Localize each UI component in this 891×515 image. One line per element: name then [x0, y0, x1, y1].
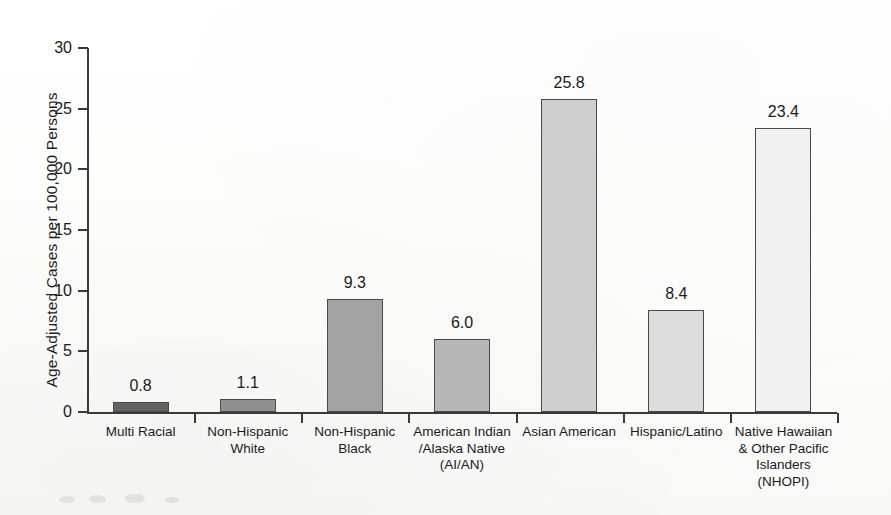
bar-group: 23.4 [755, 48, 811, 412]
bar-group: 25.8 [541, 48, 597, 412]
bar-value-label: 1.1 [196, 374, 300, 392]
category-label-line: Asian American [516, 424, 623, 441]
y-axis-tick-label: 10 [32, 282, 72, 300]
x-axis-tick-mark [408, 413, 410, 423]
y-axis-tick-mark [78, 47, 88, 49]
x-axis-category-label: Multi Racial [87, 424, 194, 441]
bar-group: 0.8 [113, 48, 169, 412]
category-label-line: American Indian [408, 424, 515, 441]
bar [648, 310, 704, 412]
bar-group: 8.4 [648, 48, 704, 412]
y-axis-tick-label: 25 [32, 100, 72, 118]
bar [220, 399, 276, 412]
y-axis-tick-mark [78, 290, 88, 292]
x-axis-tick-mark [301, 413, 303, 423]
bar [541, 99, 597, 412]
y-axis-tick-label: 0 [32, 403, 72, 421]
x-axis-tick-mark [623, 413, 625, 423]
x-axis-tick-mark [194, 413, 196, 423]
y-axis-tick-label: 5 [32, 342, 72, 360]
category-label-line: Multi Racial [87, 424, 194, 441]
x-axis-tick-mark [730, 413, 732, 423]
y-axis-tick-labels: 302520151050 [28, 0, 72, 515]
x-axis-tick-mark [516, 413, 518, 423]
bar-chart: Age-Adjusted Cases per 100,000 Persons 3… [0, 0, 891, 515]
x-axis-category-label: Native Hawaiian& Other PacificIslanders(… [730, 424, 837, 490]
y-axis-tick-label: 20 [32, 160, 72, 178]
bar [434, 339, 490, 412]
y-axis-tick-mark [78, 350, 88, 352]
bar [113, 402, 169, 412]
y-axis-tick-mark [78, 168, 88, 170]
y-axis-tick-label: 30 [32, 39, 72, 57]
bar-value-label: 9.3 [303, 274, 407, 292]
category-label-line: Non-Hispanic [194, 424, 301, 441]
category-label-line: & Other Pacific [730, 441, 837, 458]
y-axis-tick-mark [78, 108, 88, 110]
category-label-line: Native Hawaiian [730, 424, 837, 441]
bar-group: 6.0 [434, 48, 490, 412]
category-label-line: Hispanic/Latino [623, 424, 730, 441]
bar-value-label: 6.0 [410, 314, 514, 332]
y-axis-tick-mark [78, 229, 88, 231]
category-label-line: Non-Hispanic [301, 424, 408, 441]
category-label-line: White [194, 441, 301, 458]
bar-value-label: 23.4 [731, 103, 835, 121]
category-label-line: Black [301, 441, 408, 458]
x-axis-category-label: Non-HispanicBlack [301, 424, 408, 457]
x-axis-tick-mark [837, 413, 839, 423]
x-axis-category-labels: Multi RacialNon-HispanicWhiteNon-Hispani… [87, 424, 837, 512]
bar [755, 128, 811, 412]
bar-group: 1.1 [220, 48, 276, 412]
y-axis-tick-mark [78, 411, 88, 413]
category-label-line: (AI/AN) [408, 457, 515, 474]
x-axis-category-label: American Indian/Alaska Native(AI/AN) [408, 424, 515, 474]
bar-value-label: 8.4 [624, 285, 728, 303]
category-label-line: /Alaska Native [408, 441, 515, 458]
y-axis-tick-label: 15 [32, 221, 72, 239]
x-axis-category-label: Hispanic/Latino [623, 424, 730, 441]
category-label-line: Islanders [730, 457, 837, 474]
plot-area: 0.81.19.36.025.88.423.4 [87, 48, 837, 412]
x-axis-category-label: Non-HispanicWhite [194, 424, 301, 457]
x-axis-line [87, 412, 837, 414]
bar-value-label: 25.8 [517, 74, 621, 92]
bar [327, 299, 383, 412]
bar-group: 9.3 [327, 48, 383, 412]
bar-value-label: 0.8 [89, 377, 193, 395]
category-label-line: (NHOPI) [730, 474, 837, 491]
x-axis-category-label: Asian American [516, 424, 623, 441]
